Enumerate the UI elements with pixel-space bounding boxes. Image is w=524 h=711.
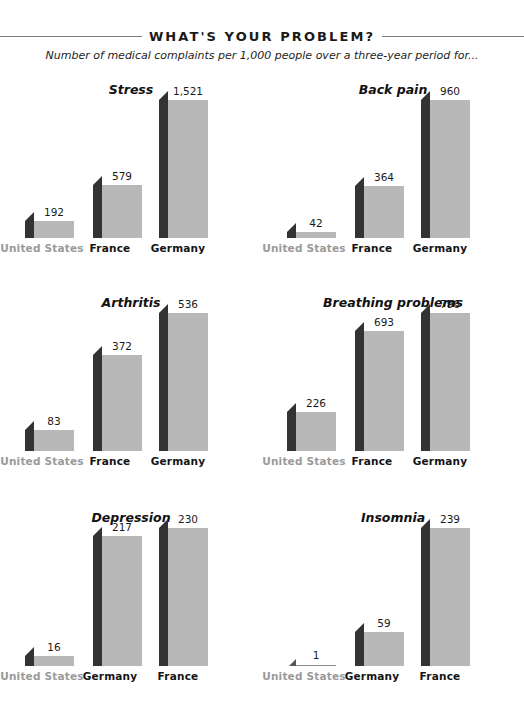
- chart-grid: Stress1925791,521United StatesFranceGerm…: [0, 70, 524, 711]
- bar-value-label: 960: [430, 85, 470, 97]
- bar-front-face: [34, 430, 74, 451]
- chart-arthritis: Arthritis83372536United StatesFranceGerm…: [0, 283, 262, 498]
- bar-value-label: 536: [168, 298, 208, 310]
- axis-labels: United StatesGermanyFrance: [262, 670, 524, 686]
- bar-united-states: 1: [287, 658, 336, 666]
- bar-united-states: 16: [25, 656, 74, 666]
- plot-area: 1925791,521: [0, 100, 262, 238]
- bar-value-label: 1: [296, 649, 336, 661]
- bar-side-face: [287, 403, 296, 451]
- page-subtitle: Number of medical complaints per 1,000 p…: [0, 49, 524, 62]
- bar-germany: 217: [93, 536, 142, 666]
- bar-side-face: [25, 421, 34, 451]
- chart-title: Back pain: [262, 82, 524, 97]
- chart-title: Insomnia: [262, 510, 524, 525]
- bar-value-label: 372: [102, 340, 142, 352]
- bar-germany: 960: [421, 100, 470, 238]
- bar-side-face: [421, 519, 430, 666]
- bar-germany: 796: [421, 313, 470, 451]
- bar-side-face: [93, 176, 102, 238]
- bar-front-face: [430, 313, 470, 451]
- bar-france: 239: [421, 528, 470, 666]
- bar-front-face: [364, 186, 404, 238]
- bar-germany: 59: [355, 632, 404, 666]
- title-row: WHAT'S YOUR PROBLEM?: [0, 28, 524, 44]
- bar-front-face: [364, 331, 404, 451]
- bar-value-label: 693: [364, 316, 404, 328]
- bar-side-face: [159, 519, 168, 666]
- bar-front-face: [364, 632, 404, 666]
- axis-label-france: France: [398, 670, 482, 682]
- bar-front-face: [102, 536, 142, 666]
- bar-value-label: 42: [296, 217, 336, 229]
- bar-side-face: [93, 346, 102, 451]
- bar-value-label: 217: [102, 521, 142, 533]
- bar-side-face: [159, 91, 168, 238]
- bar-side-face: [355, 623, 364, 666]
- axis-label-germany: Germany: [398, 242, 482, 254]
- bar-value-label: 579: [102, 170, 142, 182]
- chart-title: Arthritis: [0, 295, 262, 310]
- bar-side-face: [159, 304, 168, 451]
- title-rule-right: [382, 36, 524, 37]
- bar-front-face: [296, 665, 336, 666]
- bar-germany: 1,521: [159, 100, 208, 238]
- bar-value-label: 364: [364, 171, 404, 183]
- axis-labels: United StatesFranceGermany: [0, 242, 262, 258]
- bar-germany: 536: [159, 313, 208, 451]
- axis-labels: United StatesFranceGermany: [262, 242, 524, 258]
- bar-value-label: 83: [34, 415, 74, 427]
- bar-value-label: 230: [168, 513, 208, 525]
- bar-side-face: [421, 304, 430, 451]
- bar-side-face: [355, 177, 364, 238]
- bar-side-face: [287, 659, 296, 666]
- bar-value-label: 59: [364, 617, 404, 629]
- bar-front-face: [102, 185, 142, 238]
- bar-side-face: [287, 223, 296, 238]
- axis-label-germany: Germany: [398, 455, 482, 467]
- bar-side-face: [421, 91, 430, 238]
- bar-value-label: 796: [430, 298, 470, 310]
- bar-united-states: 42: [287, 230, 336, 238]
- bar-value-label: 192: [34, 206, 74, 218]
- plot-area: 83372536: [0, 313, 262, 451]
- chart-breathing-problems: Breathing problems226693796United States…: [262, 283, 524, 498]
- bar-front-face: [430, 528, 470, 666]
- axis-labels: United StatesFranceGermany: [0, 455, 262, 471]
- chart-back-pain: Back pain42364960United StatesFranceGerm…: [262, 70, 524, 285]
- bar-side-face: [25, 647, 34, 666]
- bar-united-states: 83: [25, 430, 74, 451]
- title-rule-left: [0, 36, 142, 37]
- bar-front-face: [168, 100, 208, 238]
- chart-title: Stress: [0, 82, 262, 97]
- bar-france: 364: [355, 186, 404, 238]
- bar-value-label: 226: [296, 397, 336, 409]
- chart-insomnia: Insomnia159239United StatesGermanyFrance: [262, 498, 524, 711]
- bar-front-face: [296, 412, 336, 451]
- plot-area: 226693796: [262, 313, 524, 451]
- bar-front-face: [430, 100, 470, 238]
- bar-value-label: 16: [34, 641, 74, 653]
- bar-front-face: [102, 355, 142, 451]
- bar-france: 579: [93, 185, 142, 238]
- plot-area: 159239: [262, 528, 524, 666]
- axis-labels: United StatesFranceGermany: [262, 455, 524, 471]
- bar-value-label: 239: [430, 513, 470, 525]
- plot-area: 16217230: [0, 528, 262, 666]
- bar-side-face: [355, 322, 364, 451]
- bar-united-states: 226: [287, 412, 336, 451]
- bar-france: 372: [93, 355, 142, 451]
- bar-front-face: [296, 232, 336, 238]
- infographic-header: WHAT'S YOUR PROBLEM? Number of medical c…: [0, 0, 524, 70]
- axis-labels: United StatesGermanyFrance: [0, 670, 262, 686]
- bar-front-face: [168, 528, 208, 666]
- chart-depression: Depression16217230United StatesGermanyFr…: [0, 498, 262, 711]
- axis-label-france: France: [136, 670, 220, 682]
- chart-stress: Stress1925791,521United StatesFranceGerm…: [0, 70, 262, 285]
- bar-france: 230: [159, 528, 208, 666]
- axis-label-germany: Germany: [136, 455, 220, 467]
- bar-united-states: 192: [25, 221, 74, 238]
- bar-side-face: [25, 212, 34, 238]
- chart-title: Breathing problems: [262, 295, 524, 310]
- page-title: WHAT'S YOUR PROBLEM?: [149, 30, 375, 43]
